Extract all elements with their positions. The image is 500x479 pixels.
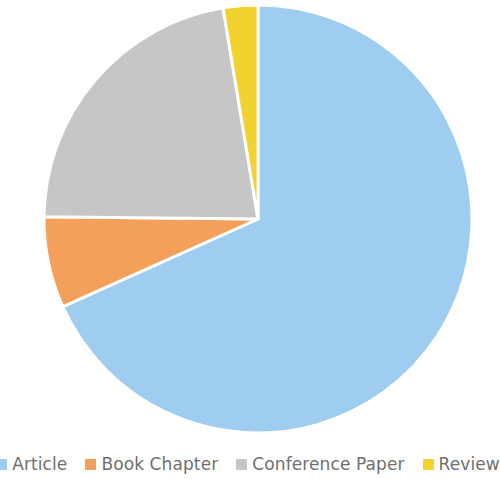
legend-swatch-icon-conference-paper bbox=[236, 459, 247, 470]
legend-label-review: Review bbox=[439, 454, 500, 474]
legend-swatch-icon-review bbox=[423, 459, 434, 470]
legend-item-conference-paper[interactable]: Conference Paper bbox=[236, 454, 404, 474]
pie-svg bbox=[0, 0, 496, 445]
pie-slice-conference-paper[interactable] bbox=[44, 8, 258, 219]
legend-label-book-chapter: Book Chapter bbox=[101, 454, 218, 474]
legend-swatch-icon-book-chapter bbox=[85, 459, 96, 470]
legend-label-conference-paper: Conference Paper bbox=[252, 454, 404, 474]
pie-plot-area bbox=[0, 0, 496, 445]
legend-item-review[interactable]: Review bbox=[423, 454, 500, 474]
legend-item-article[interactable]: Article bbox=[0, 454, 67, 474]
legend-swatch-icon-article bbox=[0, 459, 7, 470]
legend-item-book-chapter[interactable]: Book Chapter bbox=[85, 454, 218, 474]
pie-slice-group bbox=[44, 5, 472, 433]
chart-legend: Article Book Chapter Conference Paper Re… bbox=[0, 449, 496, 479]
legend-label-article: Article bbox=[12, 454, 67, 474]
